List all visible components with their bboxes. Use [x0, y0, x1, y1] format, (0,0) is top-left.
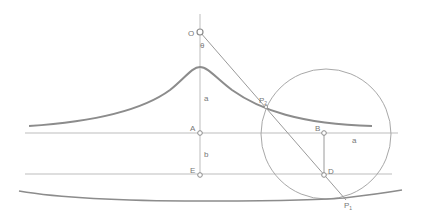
point-A [198, 131, 203, 136]
point-B [322, 131, 327, 136]
label-P2: P2 [259, 96, 267, 106]
point-O [197, 29, 203, 35]
label-P1: P1 [344, 201, 352, 211]
label-theta: θ [200, 41, 205, 50]
label-a-horizontal: a [352, 136, 357, 145]
label-b: b [204, 150, 209, 159]
construction-diagram: O θ a P2 A b E B a D P1 [0, 0, 421, 221]
label-E: E [190, 166, 195, 175]
label-B: B [315, 124, 320, 133]
point-E [198, 173, 203, 178]
label-a-vertical: a [204, 94, 209, 103]
lower-curve [19, 190, 402, 201]
label-O: O [188, 29, 194, 38]
point-D [322, 173, 327, 178]
label-A: A [190, 124, 196, 133]
label-D: D [328, 167, 334, 176]
